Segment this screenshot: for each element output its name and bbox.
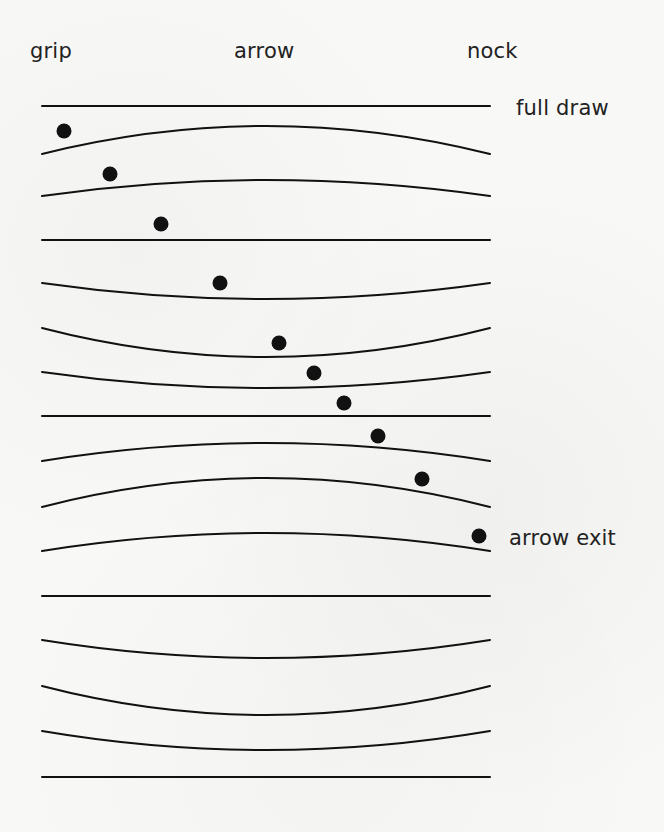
position-dot-4: [213, 276, 228, 291]
position-dot-10: [472, 529, 487, 544]
position-dot-6: [307, 366, 322, 381]
position-dot-5: [272, 336, 287, 351]
arrow-frame-line-5: [42, 283, 490, 299]
position-dot-2: [103, 167, 118, 182]
position-dot-9: [415, 472, 430, 487]
position-dot-1: [57, 124, 72, 139]
arrow-frame-line-7: [42, 372, 490, 388]
position-dot-3: [154, 217, 169, 232]
arrow-flex-diagram: [0, 0, 664, 832]
arrow-frame-line-2: [42, 126, 490, 154]
arrow-frame-line-9: [42, 443, 490, 461]
arrow-frames: [42, 106, 490, 777]
arrow-frame-line-6: [42, 328, 490, 357]
arrow-frame-line-14: [42, 686, 490, 715]
arrow-frame-line-11: [42, 533, 490, 551]
position-dot-7: [337, 396, 352, 411]
arrow-frame-line-3: [42, 180, 490, 196]
position-dot-8: [371, 429, 386, 444]
arrow-frame-line-15: [42, 731, 490, 750]
arrow-frame-line-13: [42, 640, 490, 658]
